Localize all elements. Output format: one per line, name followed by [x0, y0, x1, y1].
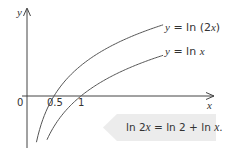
- curve-label-ln-2x-close: ): [216, 21, 220, 34]
- callout-text: ln 2x = ln 2 + ln x.: [126, 121, 223, 133]
- curve-label-ln-2x: y = ln (2x): [165, 22, 220, 33]
- tick-label-half: 0.5: [47, 98, 63, 108]
- curve-label-ln-x-eq: = ln: [170, 45, 200, 58]
- tick-label-one: 1: [78, 98, 84, 108]
- x-axis-label: x: [207, 100, 212, 111]
- curve-label-ln-2x-eq: = ln (2: [170, 21, 211, 34]
- y-axis-label: y: [17, 7, 22, 18]
- curve-label-ln-x: y = ln x: [165, 46, 205, 57]
- callout-ln2x: ln 2x = ln 2 + ln x.: [126, 121, 223, 133]
- curve-label-ln-x-var: x: [200, 45, 205, 57]
- origin-label: 0: [17, 98, 23, 108]
